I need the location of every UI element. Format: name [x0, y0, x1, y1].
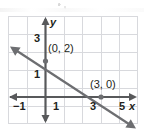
point-marker-3-0: [98, 94, 103, 99]
x-tick-label-1: 1: [53, 101, 59, 112]
point-label-0-2: (0, 2): [48, 43, 74, 54]
point-marker-0-2: [43, 58, 48, 63]
point-label-3-0: (3, 0): [90, 79, 116, 90]
y-tick-label-3: 3: [34, 33, 40, 44]
scan-artifact-streak: [0, 8, 144, 12]
x-tick-label-3: 3: [90, 101, 96, 112]
y-tick-label-1: 1: [34, 69, 40, 80]
scan-artifact-speck: [55, 1, 69, 10]
x-axis-label: x: [129, 101, 135, 112]
y-axis-label: y: [50, 17, 56, 28]
coordinate-plane-figure: y x 3 1 −1 1 3 5 (0, 2) (3, 0): [0, 0, 144, 134]
x-tick-label-5: 5: [119, 101, 125, 112]
x-tick-label-neg1: −1: [13, 101, 26, 112]
